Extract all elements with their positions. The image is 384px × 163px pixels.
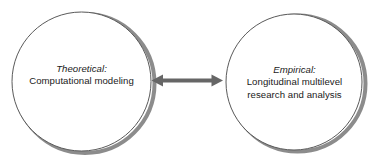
diagram-canvas: Theoretical: Computational modeling Empi…: [0, 0, 384, 163]
empirical-node-title: Empirical:: [224, 64, 365, 76]
theoretical-node-label: Theoretical: Computational modeling: [11, 63, 152, 88]
arrowhead-right-icon: [212, 75, 224, 87]
empirical-node-line-1: Longitudinal multilevel: [224, 76, 365, 88]
theoretical-node-title: Theoretical:: [11, 63, 152, 75]
empirical-node-label: Empirical: Longitudinal multilevel resea…: [224, 64, 365, 101]
bidirectional-arrow[interactable]: [152, 75, 224, 87]
empirical-node-line-2: research and analysis: [224, 89, 365, 101]
theoretical-node-line-1: Computational modeling: [11, 75, 152, 87]
